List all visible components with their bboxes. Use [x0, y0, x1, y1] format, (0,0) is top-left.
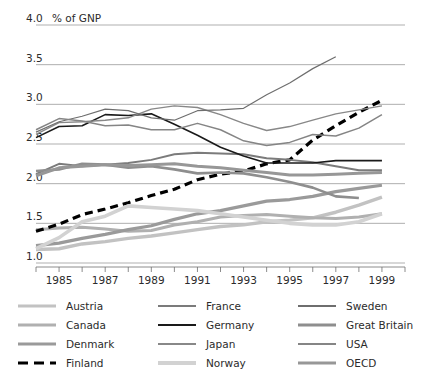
- chart-legend: AustriaCanadaDenmarkFinland FranceGerman…: [0, 296, 421, 384]
- x-axis-tick-label: 1995: [276, 274, 303, 286]
- legend-swatch-austria: [18, 300, 56, 312]
- legend-label: Germany: [206, 319, 254, 331]
- legend-label: Canada: [66, 319, 106, 331]
- legend-item[interactable]: Japan: [158, 334, 298, 353]
- y-axis-tick-label: 1.0: [26, 250, 43, 262]
- legend-item[interactable]: Sweden: [298, 296, 421, 315]
- x-axis-tick-label: 1985: [46, 274, 73, 286]
- legend-label: Denmark: [66, 338, 114, 350]
- x-axis-labels-group: 19851987198919911993199519971999: [46, 274, 396, 286]
- legend-swatch-japan: [158, 338, 196, 350]
- x-axis-tick-label: 1989: [138, 274, 165, 286]
- legend-column-1: AustriaCanadaDenmarkFinland: [18, 296, 158, 372]
- x-axis-group: [36, 267, 405, 272]
- legend-item[interactable]: Germany: [158, 315, 298, 334]
- legend-swatch-usa: [298, 338, 336, 350]
- x-axis-tick-label: 1999: [369, 274, 396, 286]
- legend-column-3: SwedenGreat BritainUSAOECD: [298, 296, 421, 372]
- legend-label: USA: [346, 338, 368, 350]
- legend-label: Norway: [206, 357, 246, 369]
- legend-item[interactable]: USA: [298, 334, 421, 353]
- y-axis-unit-label: % of GNP: [52, 12, 101, 24]
- legend-item[interactable]: Norway: [158, 353, 298, 372]
- y-axis-labels-group: 1.01.52.02.53.03.54.0: [26, 12, 43, 262]
- y-axis-tick-label: 4.0: [26, 12, 43, 24]
- line-chart-plot: 1.01.52.02.53.03.54.0 % of GNP 198519871…: [0, 0, 421, 290]
- x-axis-tick-label: 1993: [230, 274, 257, 286]
- legend-swatch-norway: [158, 357, 196, 369]
- legend-swatch-finland: [18, 357, 56, 369]
- legend-swatch-france: [158, 300, 196, 312]
- legend-item[interactable]: Great Britain: [298, 315, 421, 334]
- y-axis-tick-label: 3.0: [26, 91, 43, 103]
- legend-label: Japan: [206, 338, 235, 350]
- legend-item[interactable]: Austria: [18, 296, 158, 315]
- legend-swatch-great-britain: [298, 319, 336, 331]
- chart-container: 1.01.52.02.53.03.54.0 % of GNP 198519871…: [0, 0, 421, 384]
- series-lines-group: [36, 57, 382, 250]
- legend-label: Sweden: [346, 300, 388, 312]
- legend-label: OECD: [346, 357, 376, 369]
- legend-swatch-denmark: [18, 338, 56, 350]
- legend-item[interactable]: Finland: [18, 353, 158, 372]
- legend-item[interactable]: OECD: [298, 353, 421, 372]
- y-axis-tick-label: 1.5: [26, 210, 43, 222]
- legend-column-2: FranceGermanyJapanNorway: [158, 296, 298, 372]
- x-axis-tick-label: 1991: [184, 274, 211, 286]
- legend-label: Finland: [66, 357, 104, 369]
- y-axis-tick-label: 3.5: [26, 52, 43, 64]
- legend-swatch-oecd: [298, 357, 336, 369]
- y-axis-unit-label-group: % of GNP: [52, 12, 101, 24]
- x-axis-tick-label: 1987: [92, 274, 119, 286]
- legend-swatch-germany: [158, 319, 196, 331]
- legend-label: France: [206, 300, 241, 312]
- legend-label: Great Britain: [346, 319, 413, 331]
- legend-swatch-sweden: [298, 300, 336, 312]
- x-axis-tick-label: 1997: [322, 274, 349, 286]
- legend-label: Austria: [66, 300, 103, 312]
- legend-item[interactable]: France: [158, 296, 298, 315]
- legend-item[interactable]: Canada: [18, 315, 158, 334]
- legend-swatch-canada: [18, 319, 56, 331]
- legend-item[interactable]: Denmark: [18, 334, 158, 353]
